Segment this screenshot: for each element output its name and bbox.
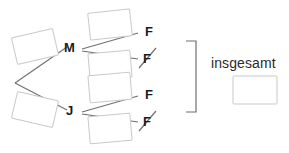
answer-box-total[interactable] [233,76,277,104]
tree-diagram-canvas: M J F F F F insgesamt [0,0,289,153]
branch-node-m-label: M [64,41,75,54]
answer-box-m-f[interactable] [88,9,133,40]
answer-box-j-f[interactable] [88,72,132,103]
outcome-node-m-not-f-label: F [143,52,151,65]
outcome-node-j-not-f-label: F [143,115,151,128]
tree-diagram-svg [0,0,289,153]
branch-node-j-label: J [66,104,73,117]
outcome-node-j-f-label: F [145,88,153,101]
answer-box-m[interactable] [12,29,59,65]
grouping-bracket [186,41,196,112]
answer-box-j-not-f[interactable] [88,113,132,144]
answer-box-j[interactable] [12,92,59,128]
outcome-node-m-f-label: F [145,25,153,38]
total-label: insgesamt [211,56,276,70]
